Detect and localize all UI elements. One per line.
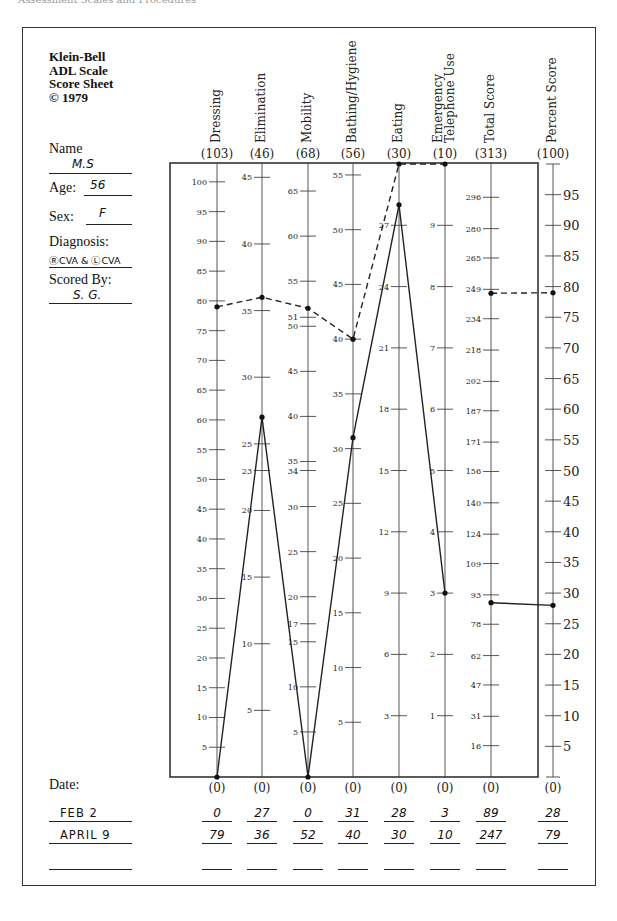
row-date-underline <box>49 821 132 822</box>
row-score-underline <box>538 821 568 822</box>
tick-label: 35 <box>333 390 343 399</box>
row-score-mobility[interactable]: 52 <box>293 828 323 842</box>
tick-label: 50 <box>197 475 207 484</box>
data-point <box>214 774 219 779</box>
row-score-emergency-telephone-use[interactable]: 3 <box>430 806 460 820</box>
tick-label: 51 <box>288 313 298 322</box>
tick-label: 249 <box>466 285 481 294</box>
tick-label: 55 <box>197 446 207 455</box>
row-date-underline <box>49 869 132 870</box>
axis-title: Mobility <box>300 92 314 143</box>
axis-title: Eating <box>391 103 405 143</box>
tick-label: 21 <box>379 344 389 353</box>
tick-label: 30 <box>242 373 252 382</box>
axis-max-label: (56) <box>341 147 366 161</box>
row-score-underline <box>538 843 568 844</box>
data-point <box>305 774 310 779</box>
axis-zero-label: (0) <box>300 781 317 795</box>
tick-label: 109 <box>466 560 481 569</box>
axis-max-label: (100) <box>537 147 569 161</box>
axis-zero-label: (0) <box>254 781 271 795</box>
tick-label: 3 <box>430 589 435 598</box>
axis-title: Elimination <box>254 73 268 143</box>
tick-label: 45 <box>242 173 252 182</box>
tick-label: 45 <box>288 367 298 376</box>
row-score-eating[interactable]: 28 <box>384 806 414 820</box>
tick-label: 25 <box>563 617 580 632</box>
tick-label: 10 <box>563 709 580 724</box>
tick-label: 25 <box>288 548 298 557</box>
tick-label: 40 <box>242 240 252 249</box>
total-percent-connector <box>491 603 553 606</box>
tick-label: 65 <box>563 372 580 387</box>
row-score-percent-score[interactable]: 79 <box>538 828 568 842</box>
row-score-elimination[interactable]: 27 <box>247 806 277 820</box>
axis-max-label: (313) <box>475 147 507 161</box>
axis-title: Dressing <box>209 89 223 143</box>
tick-label: 265 <box>466 254 481 263</box>
row-score-underline <box>430 843 460 844</box>
row-score-bathing-hygiene[interactable]: 40 <box>338 828 368 842</box>
axis-max-label: (30) <box>387 147 412 161</box>
tick-label: 218 <box>466 346 481 355</box>
row-score-total-score[interactable]: 247 <box>476 828 506 842</box>
tick-label: 156 <box>466 467 481 476</box>
row-score-elimination[interactable]: 36 <box>247 828 277 842</box>
row-score-dressing[interactable]: 79 <box>202 828 232 842</box>
tick-label: 80 <box>563 280 580 295</box>
tick-label: 6 <box>384 650 389 659</box>
tick-label: 25 <box>197 624 207 633</box>
tick-label: 62 <box>471 652 481 661</box>
total-percent-connector <box>491 293 553 294</box>
tick-label: 40 <box>333 335 343 344</box>
tick-label: 45 <box>333 280 343 289</box>
data-point <box>488 600 493 605</box>
tick-label: 30 <box>288 503 298 512</box>
tick-label: 5 <box>338 718 343 727</box>
row-date[interactable]: APRIL 9 <box>60 828 111 842</box>
tick-label: 78 <box>471 620 481 629</box>
tick-label: 15 <box>242 573 252 582</box>
tick-label: 65 <box>288 187 298 196</box>
tick-label: 50 <box>333 226 343 235</box>
row-score-underline <box>247 843 277 844</box>
tick-label: 18 <box>379 405 389 414</box>
tick-label: 31 <box>471 712 481 721</box>
axis-title: Telephone Use <box>443 53 457 143</box>
tick-label: 85 <box>563 249 580 264</box>
row-score-bathing-hygiene[interactable]: 31 <box>338 806 368 820</box>
tick-label: 45 <box>563 494 580 509</box>
tick-label: 27 <box>379 221 389 230</box>
data-point <box>259 415 264 420</box>
tick-label: 70 <box>563 341 580 356</box>
tick-label: 45 <box>197 505 207 514</box>
row-score-dressing[interactable]: 0 <box>202 806 232 820</box>
row-score-emergency-telephone-use[interactable]: 10 <box>430 828 460 842</box>
tick-label: 202 <box>466 377 481 386</box>
axis-max-label: (103) <box>201 147 233 161</box>
tick-label: 35 <box>288 457 298 466</box>
tick-label: 55 <box>288 277 298 286</box>
tick-label: 30 <box>563 586 580 601</box>
tick-label: 65 <box>197 386 207 395</box>
tick-label: 16 <box>471 742 481 751</box>
row-score-underline <box>202 869 232 870</box>
tick-label: 296 <box>466 193 481 202</box>
row-score-mobility[interactable]: 0 <box>293 806 323 820</box>
row-score-percent-score[interactable]: 28 <box>538 806 568 820</box>
data-point <box>488 291 493 296</box>
tick-label: 40 <box>197 535 207 544</box>
tick-label: 8 <box>430 283 435 292</box>
tick-label: 7 <box>430 344 435 353</box>
tick-label: 95 <box>563 188 580 203</box>
data-point <box>259 295 264 300</box>
row-score-total-score[interactable]: 89 <box>476 806 506 820</box>
row-score-underline <box>476 869 506 870</box>
axis-max-label: (68) <box>296 147 321 161</box>
axis-zero-label: (0) <box>391 781 408 795</box>
row-date[interactable]: FEB 2 <box>60 806 98 820</box>
tick-label: 15 <box>197 684 207 693</box>
row-score-eating[interactable]: 30 <box>384 828 414 842</box>
tick-label: 12 <box>379 528 389 537</box>
tick-label: 1 <box>430 712 435 721</box>
